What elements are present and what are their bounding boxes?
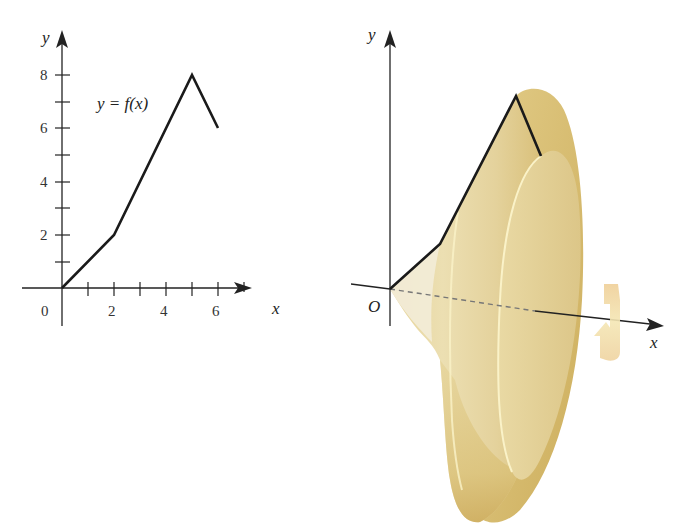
function-label: y = f(x) xyxy=(95,94,148,113)
right-x-axis-stub xyxy=(351,284,390,289)
figure: 2 4 6 0 2 4 6 8 y x y = f(x) xyxy=(0,0,682,529)
rotation-arrow-icon xyxy=(594,284,620,361)
right-x-axis-label: x xyxy=(649,333,658,352)
y-tick-label-6: 6 xyxy=(40,120,48,136)
y-axis-label: y xyxy=(40,28,50,47)
y-tick-label-2: 2 xyxy=(40,227,48,243)
right-origin-label: O xyxy=(368,297,380,316)
x-ticks xyxy=(88,282,244,296)
x-tick-label-2: 2 xyxy=(108,303,116,319)
x-tick-label-6: 6 xyxy=(212,303,220,319)
origin-label: 0 xyxy=(41,303,49,319)
y-tick-label-4: 4 xyxy=(40,174,48,190)
right-y-axis-label: y xyxy=(366,25,376,44)
x-tick-label-4: 4 xyxy=(160,303,168,319)
x-axis-label: x xyxy=(271,299,280,318)
left-graph: 2 4 6 0 2 4 6 8 y x y = f(x) xyxy=(22,28,280,326)
y-tick-label-8: 8 xyxy=(40,67,48,83)
